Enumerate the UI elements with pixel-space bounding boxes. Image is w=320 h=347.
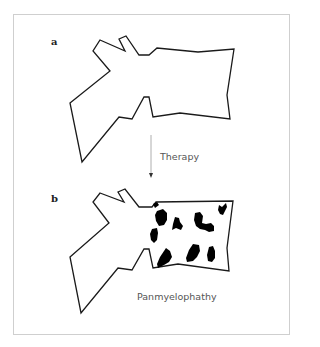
lesion-1 — [153, 202, 159, 208]
lesion-5 — [194, 212, 214, 232]
lesion-8 — [186, 244, 200, 262]
lesion-9 — [207, 246, 215, 262]
therapy-label: Therapy — [160, 151, 199, 162]
lesions — [150, 202, 227, 268]
lesion-2 — [155, 209, 167, 226]
therapy-arrow — [149, 135, 153, 178]
lesion-4 — [150, 228, 158, 243]
panmyelopathy-caption: Panmyelophathy — [137, 291, 217, 302]
shape-before-therapy — [70, 36, 234, 162]
lesion-6 — [218, 203, 227, 215]
lesion-3 — [172, 217, 183, 230]
